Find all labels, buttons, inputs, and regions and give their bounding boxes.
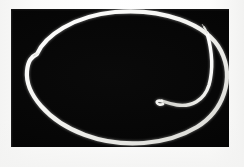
filament-curve-layer bbox=[11, 9, 229, 147]
outer-loop-path bbox=[27, 11, 227, 143]
photographic-plate bbox=[11, 9, 229, 147]
inner-strand-path bbox=[162, 33, 212, 105]
figure-root bbox=[0, 0, 244, 167]
inner-strand-tip-point bbox=[202, 25, 204, 27]
